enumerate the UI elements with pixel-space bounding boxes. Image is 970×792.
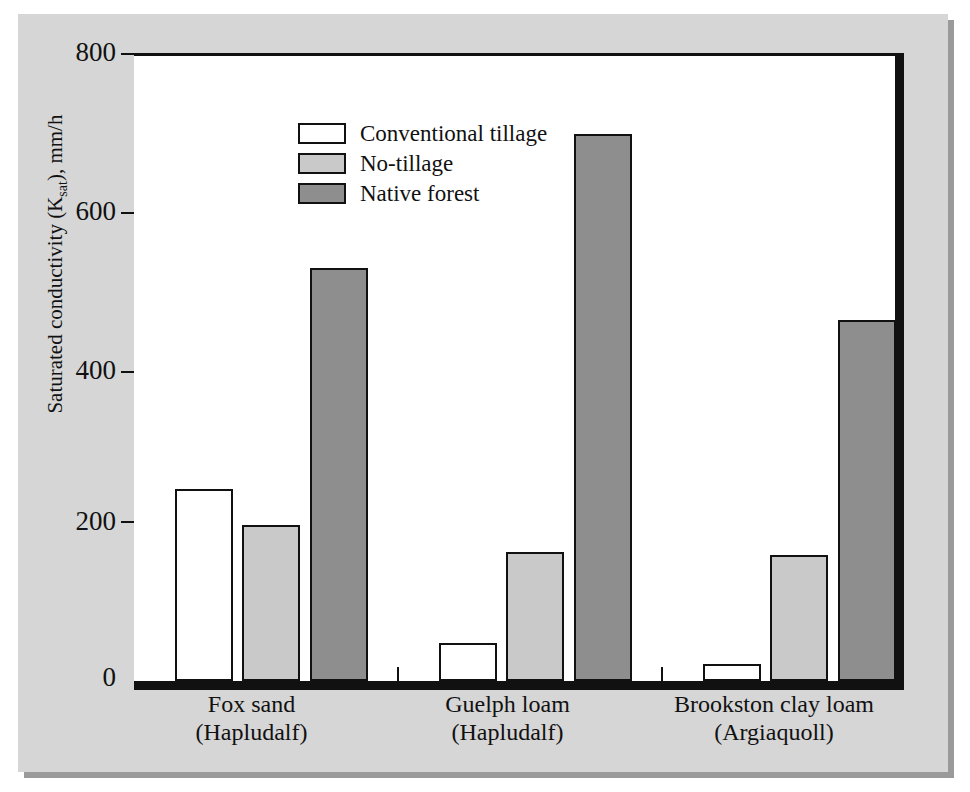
bar-guelph-loam-no-tillage[interactable] bbox=[506, 552, 564, 681]
y-tick-mark-200 bbox=[121, 521, 135, 523]
legend-swatch-icon-no-tillage bbox=[298, 153, 346, 174]
bar-fox-sand-no-tillage[interactable] bbox=[242, 525, 300, 681]
legend-label-no-tillage: No-tillage bbox=[360, 152, 453, 175]
bar-fox-sand-conventional-tillage[interactable] bbox=[175, 489, 233, 681]
y-axis-title-subscript: sat bbox=[55, 181, 70, 197]
y-tick-mark-600 bbox=[121, 212, 135, 214]
x-tick-mark-2 bbox=[661, 667, 663, 681]
legend-label-conventional-tillage: Conventional tillage bbox=[360, 122, 547, 145]
x-tick-mark-1 bbox=[397, 667, 399, 681]
legend-item-no-tillage[interactable]: No-tillage bbox=[298, 148, 547, 178]
x-category-label-brookston-clay-loam-line1: Brookston clay loam bbox=[643, 690, 905, 718]
x-category-label-fox-sand: Fox sand (Hapludalf) bbox=[134, 690, 369, 747]
x-category-label-guelph-loam-line1: Guelph loam bbox=[390, 690, 625, 718]
figure-panel: Saturated conductivity (Ksat), mm/h 800 … bbox=[18, 14, 948, 772]
x-category-label-brookston-clay-loam-line2: (Argiaquoll) bbox=[643, 718, 905, 746]
legend-item-native-forest[interactable]: Native forest bbox=[298, 178, 547, 208]
bar-brookston-clay-loam-native-forest[interactable] bbox=[838, 320, 896, 681]
y-tick-mark-400 bbox=[121, 371, 135, 373]
y-tick-label-0: 0 bbox=[46, 664, 116, 691]
x-category-label-guelph-loam-line2: (Hapludalf) bbox=[390, 718, 625, 746]
x-category-label-fox-sand-line1: Fox sand bbox=[134, 690, 369, 718]
legend-swatch-icon-conventional-tillage bbox=[298, 123, 346, 144]
legend-item-conventional-tillage[interactable]: Conventional tillage bbox=[298, 118, 547, 148]
x-category-label-guelph-loam: Guelph loam (Hapludalf) bbox=[390, 690, 625, 747]
bar-guelph-loam-native-forest[interactable] bbox=[574, 134, 632, 681]
bar-brookston-clay-loam-no-tillage[interactable] bbox=[770, 555, 828, 681]
y-tick-label-400: 400 bbox=[46, 357, 116, 384]
bar-fox-sand-native-forest[interactable] bbox=[310, 268, 368, 681]
bar-guelph-loam-conventional-tillage[interactable] bbox=[439, 643, 497, 681]
y-tick-mark-800 bbox=[121, 53, 135, 55]
x-category-label-brookston-clay-loam: Brookston clay loam (Argiaquoll) bbox=[643, 690, 905, 747]
y-tick-label-200: 200 bbox=[46, 508, 116, 535]
plot-area: Conventional tillage No-tillage Native f… bbox=[134, 53, 904, 690]
bar-brookston-clay-loam-conventional-tillage[interactable] bbox=[703, 664, 761, 681]
y-axis-title: Saturated conductivity (Ksat), mm/h bbox=[43, 29, 71, 499]
y-tick-label-600: 600 bbox=[46, 198, 116, 225]
y-axis-title-suffix: ), mm/h bbox=[43, 115, 67, 182]
x-category-label-fox-sand-line2: (Hapludalf) bbox=[134, 718, 369, 746]
legend: Conventional tillage No-tillage Native f… bbox=[298, 118, 547, 208]
legend-label-native-forest: Native forest bbox=[360, 182, 479, 205]
legend-swatch-icon-native-forest bbox=[298, 183, 346, 204]
y-tick-label-800: 800 bbox=[46, 39, 116, 66]
